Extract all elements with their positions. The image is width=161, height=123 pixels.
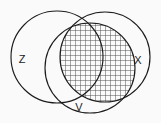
set-label-z: Z — [19, 53, 26, 65]
set-label-v: V — [75, 101, 83, 113]
venn-diagram-figure: Z V X — [0, 0, 161, 123]
venn-diagram-canvas: Z V X — [0, 0, 161, 123]
set-label-x: X — [134, 54, 142, 66]
